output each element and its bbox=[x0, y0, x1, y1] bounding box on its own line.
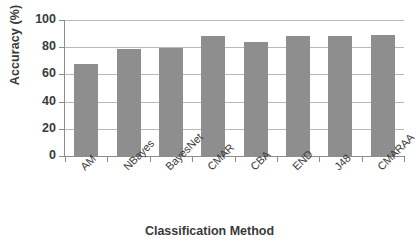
x-tick-0 bbox=[65, 157, 66, 162]
x-tick-4 bbox=[235, 157, 236, 162]
x-tick-1 bbox=[107, 157, 108, 162]
x-tick-3 bbox=[192, 157, 193, 162]
y-tick-label-0: 0 bbox=[6, 149, 56, 162]
bar-nbayes bbox=[117, 49, 141, 156]
x-axis-title: Classification Method bbox=[0, 224, 419, 238]
y-tick-label-40: 40 bbox=[6, 95, 56, 108]
x-tick-7 bbox=[362, 157, 363, 162]
x-tick-2 bbox=[150, 157, 151, 162]
x-tick-6 bbox=[319, 157, 320, 162]
y-tick-40 bbox=[59, 102, 65, 103]
y-tick-label-60: 60 bbox=[6, 67, 56, 80]
bar-cba bbox=[244, 42, 268, 156]
x-tick-8 bbox=[404, 157, 405, 162]
x-tick-5 bbox=[277, 157, 278, 162]
bar-am bbox=[74, 64, 98, 156]
y-axis-tick-labels: 020406080100 bbox=[0, 0, 56, 246]
y-tick-60 bbox=[59, 74, 65, 75]
y-tick-0 bbox=[59, 156, 65, 157]
bar-cmar bbox=[201, 36, 225, 156]
y-tick-100 bbox=[59, 20, 65, 21]
plot-area bbox=[65, 20, 404, 156]
bar-series bbox=[65, 20, 404, 156]
y-tick-label-80: 80 bbox=[6, 40, 56, 53]
bar-end bbox=[286, 36, 310, 156]
bar-chart-figure: Accuracy (%) 020406080100 AMNBayesBayesN… bbox=[0, 0, 419, 246]
y-tick-label-100: 100 bbox=[6, 13, 56, 26]
y-tick-20 bbox=[59, 129, 65, 130]
bar-bayesnet bbox=[159, 48, 183, 156]
bar-j48 bbox=[328, 36, 352, 156]
y-tick-label-20: 20 bbox=[6, 122, 56, 135]
y-tick-80 bbox=[59, 47, 65, 48]
bar-cmaraa bbox=[371, 35, 395, 156]
